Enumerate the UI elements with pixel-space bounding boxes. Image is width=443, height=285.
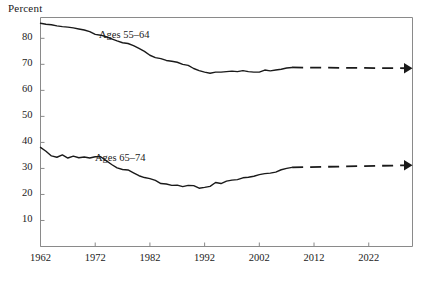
x-axis-tick-label: 2012 [304,252,325,263]
y-axis-tick-label: 50 [11,109,33,120]
x-axis-tick-label: 2022 [358,252,379,263]
y-axis-tick-label: 70 [11,57,33,68]
series-line-historical-1 [41,147,293,188]
x-axis-tick-label: 2002 [249,252,270,263]
chart-figure: Percent 10203040506070801962197219821992… [0,0,443,285]
chart-series [41,23,413,188]
y-axis-tick-label: 60 [11,83,33,94]
y-axis-tick-label: 10 [11,213,33,224]
y-axis-tick-label: 40 [11,135,33,146]
chart-axes [41,18,413,247]
series-endpoint-arrow-1 [404,160,413,170]
y-axis-tick-label: 20 [11,187,33,198]
x-axis-tick-label: 1962 [30,252,51,263]
series-endpoint-arrow-0 [404,63,413,73]
x-axis-tick-label: 1982 [139,252,160,263]
y-axis-title: Percent [8,2,42,14]
y-axis-tick-label: 80 [11,31,33,42]
series-label-ages-65-74: Ages 65–74 [95,152,145,163]
series-line-projection-0 [292,67,407,68]
series-label-ages-55-64: Ages 55–64 [99,29,149,40]
y-axis-tick-label: 30 [11,161,33,172]
x-axis-tick-label: 1992 [194,252,215,263]
line-chart-plot [0,0,443,285]
series-line-historical-0 [41,23,293,73]
series-line-projection-1 [292,165,407,167]
x-axis-tick-label: 1972 [85,252,106,263]
